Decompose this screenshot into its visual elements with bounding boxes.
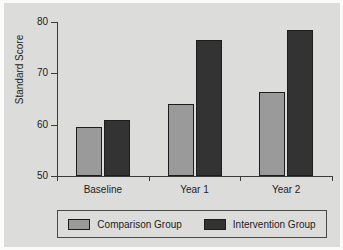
legend-item-comparison-group[interactable]: Comparison Group <box>68 219 181 230</box>
x-axis-line <box>57 176 333 177</box>
x-tick-mark <box>149 176 150 181</box>
x-tick-label: Baseline <box>58 184 148 196</box>
bar-year-2-intervention-group <box>287 30 313 176</box>
x-tick-label: Year 1 <box>150 184 240 196</box>
x-tick-label: Year 2 <box>241 184 331 196</box>
bar-year-1-comparison-group <box>168 104 194 176</box>
y-tick-label: 60 <box>8 120 48 130</box>
bar-baseline-intervention-group <box>104 120 130 176</box>
bar-chart-figure: Standard Score 50607080 BaselineYear 1Ye… <box>0 0 343 250</box>
legend-label: Comparison Group <box>97 219 181 230</box>
chart-legend: Comparison GroupIntervention Group <box>57 210 327 238</box>
bar-year-1-intervention-group <box>196 40 222 176</box>
legend-item-intervention-group[interactable]: Intervention Group <box>204 219 316 230</box>
y-tick-label: 80 <box>8 17 48 27</box>
x-tick-mark <box>332 176 333 181</box>
legend-label: Intervention Group <box>233 219 316 230</box>
x-tick-mark <box>240 176 241 181</box>
y-tick-label: 50 <box>8 171 48 181</box>
legend-swatch-icon <box>68 219 90 230</box>
x-tick-mark <box>57 176 58 181</box>
bar-baseline-comparison-group <box>76 127 102 176</box>
legend-swatch-icon <box>204 219 226 230</box>
plot-area <box>57 22 332 176</box>
y-tick-label: 70 <box>8 68 48 78</box>
bar-year-2-comparison-group <box>259 92 285 176</box>
